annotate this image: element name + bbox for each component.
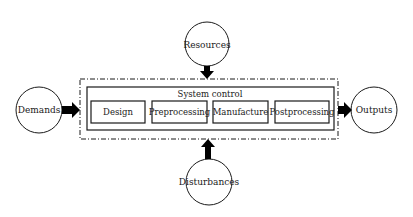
arrow-disturbances-up [201, 139, 215, 159]
stage-manufacture: Manufacture [213, 101, 269, 123]
stage-preprocessing: Preprocessing [149, 101, 211, 123]
stage-postprocessing-label: Postprocessing [269, 107, 335, 117]
stage-manufacture-label: Manufacture [213, 107, 269, 117]
stage-postprocessing: Postprocessing [269, 101, 335, 123]
resources-label: Resources [183, 40, 231, 50]
system-control-title: System control [178, 89, 243, 99]
node-demands: Demands [16, 87, 62, 133]
arrow-demands-right [62, 102, 80, 118]
stage-design-label: Design [103, 107, 133, 117]
system-control-diagram: System control Design Preprocessing Manu… [0, 0, 413, 217]
arrow-resources-down [200, 66, 214, 79]
disturbances-label: Disturbances [179, 177, 240, 187]
demands-label: Demands [18, 105, 61, 115]
arrow-outputs-right [338, 102, 352, 118]
node-resources: Resources [183, 22, 231, 66]
stage-design: Design [91, 101, 145, 123]
outputs-label: Outputs [356, 105, 393, 115]
node-disturbances: Disturbances [179, 159, 240, 205]
stage-preprocessing-label: Preprocessing [149, 107, 211, 117]
node-outputs: Outputs [351, 87, 397, 133]
